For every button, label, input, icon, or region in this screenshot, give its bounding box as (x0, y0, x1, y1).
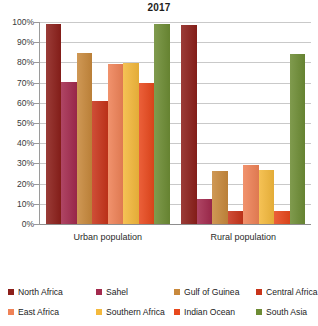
bar[interactable] (108, 64, 124, 224)
y-axis-tick-label: 70% (0, 78, 34, 88)
bar[interactable] (123, 63, 139, 224)
chart-legend: North AfricaSahelGulf of GuineaCentral A… (8, 282, 312, 322)
y-axis-tick-mark (34, 62, 39, 63)
y-axis-tick-mark (34, 22, 39, 23)
legend-item[interactable]: South Asia (256, 307, 312, 317)
y-axis-tick-mark (34, 204, 39, 205)
bar[interactable] (228, 211, 244, 224)
y-axis-tick-mark (34, 123, 39, 124)
y-axis-tick-label: 90% (0, 37, 34, 47)
legend-item[interactable]: North Africa (8, 287, 96, 297)
legend-item[interactable]: Indian Ocean (174, 307, 256, 317)
bar[interactable] (61, 82, 77, 224)
y-axis-tick-mark (34, 103, 39, 104)
legend-label: North Africa (18, 287, 63, 297)
bar[interactable] (197, 199, 213, 224)
plot-area (40, 22, 311, 224)
legend-swatch-icon (96, 309, 102, 315)
bar-groups (40, 22, 311, 224)
bar[interactable] (290, 54, 306, 224)
category-label: Rural population (176, 232, 312, 242)
legend-label: East Africa (18, 307, 59, 317)
y-axis-tick-label: 80% (0, 57, 34, 67)
y-axis-tick-label: 50% (0, 118, 34, 128)
bar-set (46, 22, 170, 224)
bar[interactable] (259, 170, 275, 224)
legend-item[interactable]: Gulf of Guinea (174, 287, 256, 297)
legend-label: Sahel (106, 287, 128, 297)
y-axis-tick-mark (34, 163, 39, 164)
legend-label: Indian Ocean (184, 307, 235, 317)
bar[interactable] (139, 83, 155, 224)
legend-swatch-icon (174, 309, 180, 315)
y-axis-tick-label: 10% (0, 199, 34, 209)
bar[interactable] (77, 53, 93, 224)
y-axis-tick-mark (34, 224, 39, 225)
legend-item[interactable]: Southern Africa (96, 307, 174, 317)
y-axis-tick-label: 60% (0, 98, 34, 108)
axis-baseline (40, 224, 311, 225)
legend-item[interactable]: East Africa (8, 307, 96, 317)
bar-group (40, 22, 176, 224)
y-axis-tick-mark (34, 83, 39, 84)
category-labels: Urban populationRural population (40, 232, 311, 242)
legend-swatch-icon (256, 289, 262, 295)
bar[interactable] (181, 25, 197, 224)
legend-row: East AfricaSouthern AfricaIndian OceanSo… (8, 302, 312, 322)
legend-label: South Asia (266, 307, 307, 317)
legend-swatch-icon (8, 309, 14, 315)
chart-page: 2017 100%90%80%70%60%50%40%30%20%10%0% U… (0, 0, 318, 326)
y-axis-tick-label: 20% (0, 179, 34, 189)
y-axis-tick-label: 30% (0, 158, 34, 168)
legend-swatch-icon (174, 289, 180, 295)
legend-label: Gulf of Guinea (184, 287, 239, 297)
bar[interactable] (274, 211, 290, 224)
bar-set (181, 22, 305, 224)
legend-item[interactable]: Central Africa (256, 287, 312, 297)
legend-item[interactable]: Sahel (96, 287, 174, 297)
legend-label: Southern Africa (106, 307, 165, 317)
bar-group (176, 22, 312, 224)
legend-label: Central Africa (266, 287, 318, 297)
chart-title: 2017 (0, 2, 318, 13)
legend-row: North AfricaSahelGulf of GuineaCentral A… (8, 282, 312, 302)
y-axis-tick-mark (34, 143, 39, 144)
legend-swatch-icon (96, 289, 102, 295)
y-axis-tick-label: 40% (0, 138, 34, 148)
bar[interactable] (46, 24, 62, 224)
y-axis-tick-mark (34, 42, 39, 43)
bar[interactable] (154, 24, 170, 224)
legend-swatch-icon (8, 289, 14, 295)
bar[interactable] (92, 101, 108, 224)
y-axis-tick-label: 0% (0, 219, 34, 229)
bar[interactable] (212, 171, 228, 224)
y-axis-tick-mark (34, 184, 39, 185)
category-label: Urban population (40, 232, 176, 242)
legend-swatch-icon (256, 309, 262, 315)
y-axis-tick-label: 100% (0, 17, 34, 27)
bar[interactable] (243, 165, 259, 224)
